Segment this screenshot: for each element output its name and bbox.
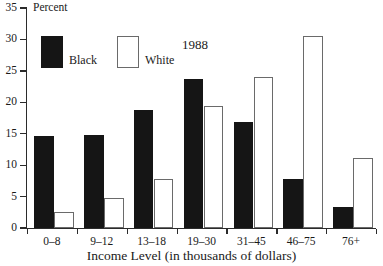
x-label-76+: 76+ <box>342 236 360 248</box>
bar-black-19–30 <box>184 79 204 228</box>
y-tick-label-15: 15 <box>6 128 18 140</box>
y-tick-20: 20 <box>20 102 27 103</box>
legend-item-black: Black <box>41 36 97 68</box>
y-tick-30: 30 <box>20 39 27 40</box>
bar-white-9–12 <box>104 198 124 228</box>
x-label-0–8: 0–8 <box>43 236 60 248</box>
y-tick-15: 15 <box>20 133 27 134</box>
x-axis-title: Income Level (in thousands of dollars) <box>0 249 383 263</box>
bar-black-46–75 <box>283 179 303 228</box>
x-tick-6 <box>326 229 327 234</box>
bar-white-76+ <box>353 158 373 228</box>
x-label-46–75: 46–75 <box>287 236 316 248</box>
bar-black-13–18 <box>134 110 154 228</box>
bar-chart: Percent 05101520253035 0–89–1213–1819–30… <box>0 0 383 266</box>
bar-white-0–8 <box>54 212 74 228</box>
bar-white-19–30 <box>204 106 224 228</box>
legend-label-white: White <box>145 54 174 66</box>
y-tick-label-30: 30 <box>6 33 18 45</box>
x-tick-7 <box>376 229 377 234</box>
bar-white-31–45 <box>254 77 274 228</box>
x-label-13–18: 13–18 <box>137 236 166 248</box>
x-label-9–12: 9–12 <box>90 236 113 248</box>
bar-black-9–12 <box>84 135 104 228</box>
x-tick-5 <box>276 229 277 234</box>
y-tick-label-5: 5 <box>11 191 17 203</box>
y-tick-label-35: 35 <box>6 2 18 14</box>
year-annotation: 1988 <box>182 38 208 51</box>
bar-black-31–45 <box>234 122 254 228</box>
x-axis-line <box>26 228 376 229</box>
y-tick-label-10: 10 <box>6 159 18 171</box>
legend-swatch-white-icon <box>117 36 139 68</box>
y-tick-25: 25 <box>20 70 27 71</box>
y-tick-0: 0 <box>20 227 27 228</box>
y-tick-label-20: 20 <box>6 96 18 108</box>
x-label-31–45: 31–45 <box>237 236 266 248</box>
legend-label-black: Black <box>69 54 97 66</box>
y-tick-label-0: 0 <box>11 222 17 234</box>
x-tick-1 <box>77 229 78 234</box>
y-tick-5: 5 <box>20 196 27 197</box>
bar-black-0–8 <box>34 136 54 228</box>
x-tick-0 <box>27 229 28 234</box>
legend-swatch-black-icon <box>41 36 63 68</box>
bar-white-13–18 <box>154 179 174 228</box>
x-tick-4 <box>226 229 227 234</box>
x-tick-3 <box>177 229 178 234</box>
legend-item-white: White <box>117 36 174 68</box>
x-tick-2 <box>127 229 128 234</box>
bar-white-46–75 <box>303 36 323 228</box>
y-tick-label-25: 25 <box>6 65 18 77</box>
y-tick-10: 10 <box>20 165 27 166</box>
x-label-19–30: 19–30 <box>187 236 216 248</box>
bar-black-76+ <box>333 207 353 228</box>
y-tick-35: 35 <box>20 7 27 8</box>
